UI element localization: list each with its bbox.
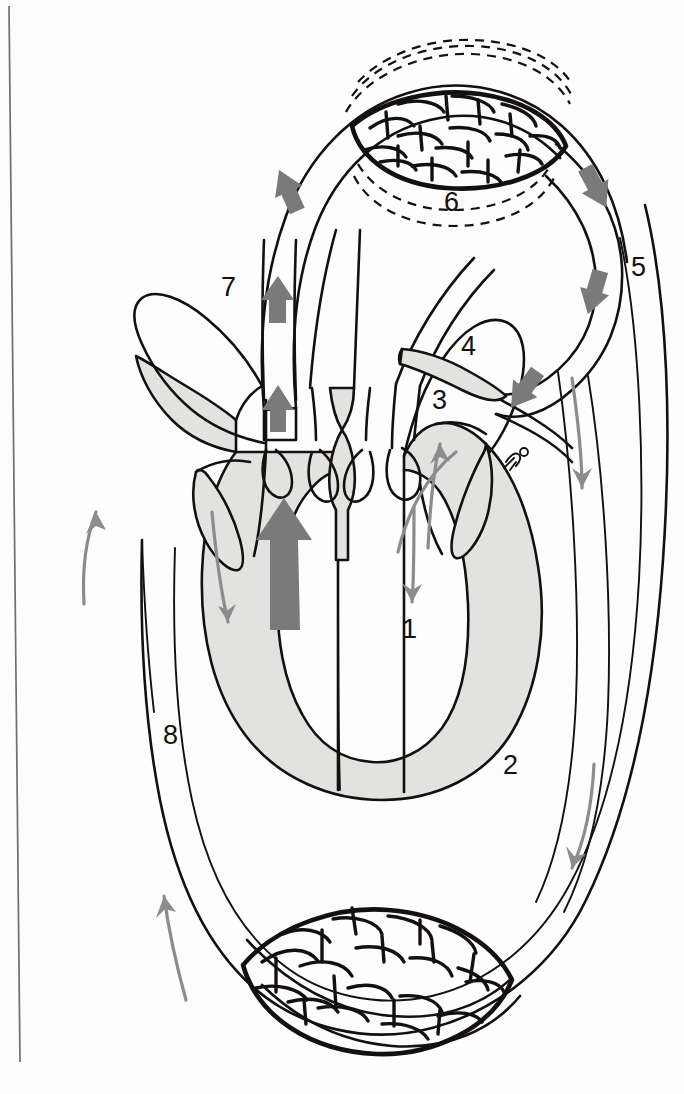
dorsal-aorta-arrow-upper (572, 378, 592, 488)
figure-canvas: .ink { fill:none; stroke:#14100f; stroke… (0, 0, 684, 1094)
label-4: 4 (461, 333, 476, 360)
label-7: 7 (221, 274, 236, 301)
page-edge-line (9, 6, 20, 1062)
label-5: 5 (631, 254, 646, 281)
label-2: 2 (503, 752, 518, 779)
pulmonary-artery-arrow-top (265, 164, 311, 217)
label-8: 8 (163, 722, 178, 749)
systemic-capillary-bed (243, 908, 520, 1054)
vena-cava-return-arrow (84, 512, 107, 604)
label-6: 6 (444, 189, 459, 216)
circulation-diagram-svg: .ink { fill:none; stroke:#14100f; stroke… (0, 0, 684, 1094)
dorsal-aorta-arrow-lower (566, 764, 594, 868)
systemic-return-arrow-lower-left (156, 896, 186, 1000)
aortic-arch-band (399, 349, 506, 400)
pulmonary-artery-arrow-upper (261, 276, 294, 323)
label-3: 3 (432, 387, 447, 414)
dorsal-aorta (536, 372, 609, 912)
signature-mark (504, 448, 528, 470)
label-1: 1 (402, 616, 417, 643)
